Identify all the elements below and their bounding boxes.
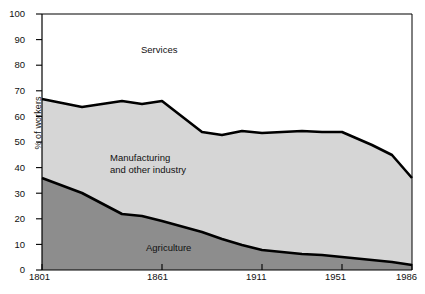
area-chart: % of workers 100 90 80 70 60 50 40 30 20…: [0, 0, 425, 294]
y-tick-marks: [36, 14, 42, 270]
plot-area: [0, 0, 425, 294]
series-label-agriculture: Agriculture: [146, 242, 191, 254]
series-label-services: Services: [141, 44, 177, 56]
series-label-manufacturing-line1: Manufacturing: [110, 152, 170, 164]
series-label-manufacturing-line2: and other industry: [110, 164, 186, 176]
